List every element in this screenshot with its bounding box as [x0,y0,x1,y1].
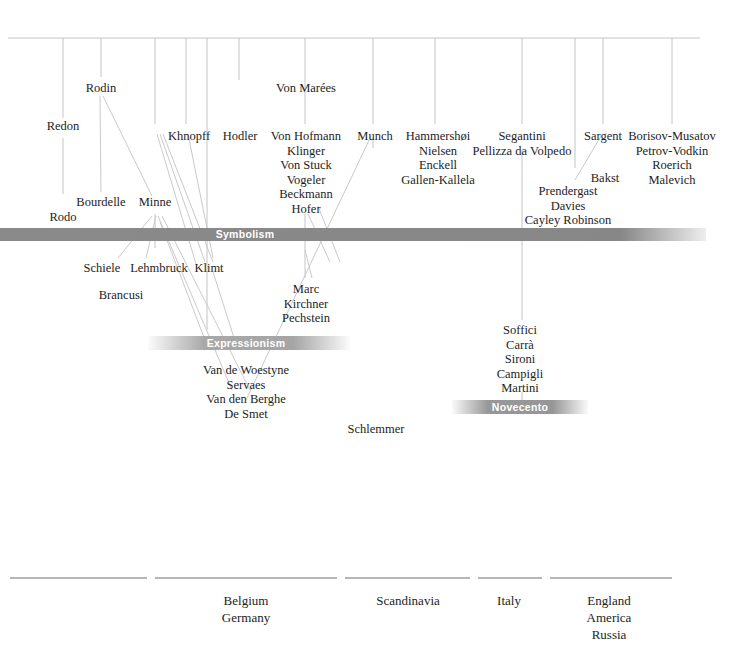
band-expressionism-label: Expressionism [207,336,286,350]
name-group-rodo: Rodo [49,210,76,225]
name-group-italian: Segantini Pellizza da Volpedo [473,129,572,158]
name-group-german: Von Hofmann Klinger Von Stuck Vogeler Be… [271,129,341,217]
region-line: England [587,592,632,609]
name-group-flemish: Van de Woestyne Servaes Van den Berghe D… [203,363,289,421]
name-label: Schiele [84,261,121,276]
name-group-rodin: Rodin [86,81,117,96]
region-label-belgium-germany: Belgium Germany [222,592,270,626]
name-group-american: Prendergast Davies Cayley Robinson [525,184,611,228]
name-label: Hammershøi [401,129,475,144]
name-group-munch: Munch [357,129,392,144]
name-label: Rodin [86,81,117,96]
name-group-schiele: Schiele [84,261,121,276]
name-group-klimt: Klimt [194,261,223,276]
region-line: Germany [222,609,270,626]
name-label: Hofer [271,202,341,217]
name-label: Van de Woestyne [203,363,289,378]
name-label: Soffici [497,323,544,338]
band-novecento-label: Novecento [492,400,548,414]
name-label: Van den Berghe [203,392,289,407]
name-label: Pellizza da Volpedo [473,144,572,159]
name-label: Schlemmer [348,422,405,437]
band-expressionism: Expressionism [148,336,350,350]
name-group-russian: Borisov-Musatov Petrov-Vodkin Roerich Ma… [628,129,716,187]
name-label: Segantini [473,129,572,144]
connector-lines-layer [0,0,748,667]
name-label: Prendergast [525,184,611,199]
name-label: Gallen-Kallela [401,173,475,188]
movement-diagram: Symbolism Expressionism Novecento Rodin … [0,0,748,667]
name-label: Sargent [584,129,622,144]
name-group-minne: Minne [139,195,172,210]
diag-rodin-minne [103,96,152,196]
region-line: Scandinavia [376,592,440,609]
name-label: Redon [47,119,80,134]
name-label: Von Stuck [271,158,341,173]
region-line: Russia [587,626,632,643]
name-label: Borisov-Musatov [628,129,716,144]
name-label: Petrov-Vodkin [628,144,716,159]
name-label: Carrà [497,338,544,353]
name-label: Von Marées [276,81,336,96]
name-group-schlemmer: Schlemmer [348,422,405,437]
name-label: Beckmann [271,187,341,202]
name-label: Malevich [628,173,716,188]
name-label: Hodler [223,129,258,144]
name-group-brancusi: Brancusi [99,288,143,303]
name-group-bourdelle: Bourdelle [76,195,125,210]
name-label: Pechstein [282,311,330,326]
name-label: Martini [497,381,544,396]
name-label: Roerich [628,158,716,173]
name-label: Sironi [497,352,544,367]
name-group-novecento: Soffici Carrà Sironi Campigli Martini [497,323,544,396]
region-line: Italy [497,592,521,609]
band-symbolism-label: Symbolism [216,228,275,241]
region-line: Belgium [222,592,270,609]
name-label: Enckell [401,158,475,173]
name-label: Vogeler [271,173,341,188]
name-label: Marc [282,282,330,297]
name-label: Munch [357,129,392,144]
name-group-bruecke: Marc Kirchner Pechstein [282,282,330,326]
name-label: Klinger [271,144,341,159]
name-group-redon: Redon [47,119,80,134]
name-label: Brancusi [99,288,143,303]
region-label-england-america-russia: England America Russia [587,592,632,643]
region-label-scandinavia: Scandinavia [376,592,440,609]
name-label: Minne [139,195,172,210]
region-label-italy: Italy [497,592,521,609]
name-label: Davies [525,199,611,214]
name-group-von-marees: Von Marées [276,81,336,96]
band-symbolism: Symbolism [0,228,706,241]
name-group-hodler: Hodler [223,129,258,144]
name-label: Von Hofmann [271,129,341,144]
name-label: Cayley Robinson [525,213,611,228]
band-novecento: Novecento [452,400,588,414]
name-label: Kirchner [282,297,330,312]
name-label: Rodo [49,210,76,225]
name-label: De Smet [203,407,289,422]
name-label: Servaes [203,378,289,393]
name-label: Khnopff [168,129,210,144]
name-label: Lehmbruck [130,261,188,276]
name-group-nordic: Hammershøi Nielsen Enckell Gallen-Kallel… [401,129,475,187]
name-label: Klimt [194,261,223,276]
name-group-khnopff: Khnopff [168,129,210,144]
diag-klimt-down [213,272,236,344]
name-group-sargent: Sargent [584,129,622,144]
diag-marc-up [305,250,312,278]
name-label: Bourdelle [76,195,125,210]
name-group-lehmbruck: Lehmbruck [130,261,188,276]
region-line: America [587,609,632,626]
diag-rodin-bourdelle [100,96,101,192]
name-label: Campigli [497,367,544,382]
name-label: Nielsen [401,144,475,159]
